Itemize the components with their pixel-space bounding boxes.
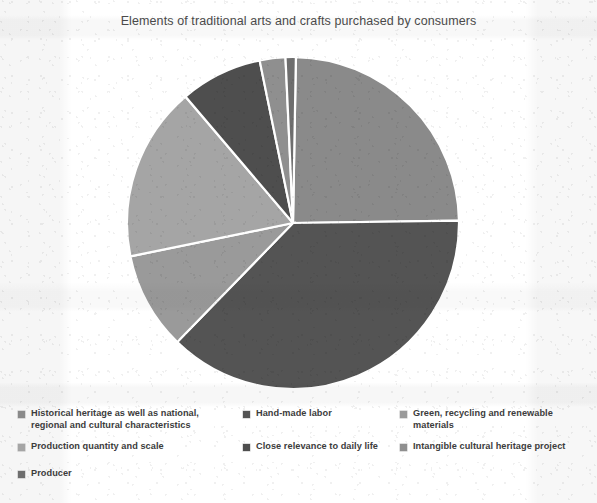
legend-item-label: Hand-made labor [256,408,332,420]
legend-item[interactable]: Historical heritage as well as national,… [18,408,233,431]
legend-item[interactable]: Hand-made labor [243,408,393,420]
legend-swatch-icon [18,411,25,418]
legend-swatch-icon [400,444,407,451]
legend-item-label: Historical heritage as well as national,… [31,408,233,431]
legend-item[interactable]: Production quantity and scale [18,441,233,453]
legend-item[interactable]: Close relevance to daily life [243,441,393,453]
legend-swatch-icon [243,411,250,418]
legend-item-label: Production quantity and scale [31,441,164,453]
legend-item[interactable]: Producer [18,468,233,480]
legend-item-label: Green, recycling and renewable materials [413,408,585,431]
pie-chart [125,55,461,391]
pie-slice-group [127,57,459,389]
pie-slice [293,57,459,223]
legend-swatch-icon [18,444,25,451]
page-title: Elements of traditional arts and crafts … [0,14,597,28]
pie-chart-svg [125,55,461,391]
chart-legend: Historical heritage as well as national,… [0,408,597,493]
legend-item-label: Producer [31,468,72,480]
legend-swatch-icon [400,411,407,418]
legend-swatch-icon [243,444,250,451]
legend-item-label: Intangible cultural heritage project [413,441,565,453]
legend-item[interactable]: Intangible cultural heritage project [400,441,585,453]
legend-item-label: Close relevance to daily life [256,441,378,453]
legend-swatch-icon [18,471,25,478]
legend-item[interactable]: Green, recycling and renewable materials [400,408,585,431]
